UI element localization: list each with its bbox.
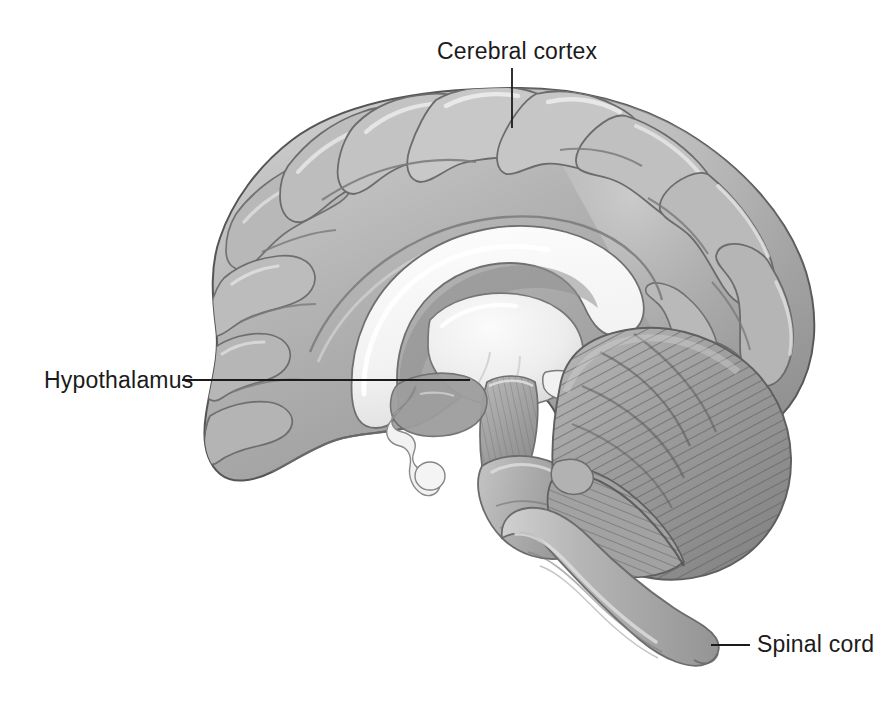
label-spinal-cord: Spinal cord <box>757 633 874 656</box>
label-cerebral-cortex: Cerebral cortex <box>437 40 597 63</box>
label-hypothalamus: Hypothalamus <box>44 369 193 392</box>
brain-illustration <box>0 0 884 720</box>
brain-anatomy-figure: Cerebral cortex Hypothalamus Spinal cord <box>0 0 884 720</box>
hypothalamus-structure <box>387 373 487 495</box>
